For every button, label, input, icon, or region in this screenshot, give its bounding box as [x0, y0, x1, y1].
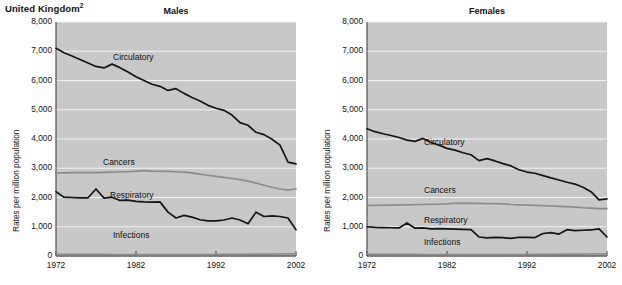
- series-line-males-infections: [56, 254, 296, 255]
- y-tick-label-females-3000: 3,000: [329, 162, 363, 172]
- y-tick-label-males-6000: 6,000: [18, 75, 52, 85]
- y-tick-label-females-4000: 4,000: [329, 133, 363, 143]
- chart-figure: United Kingdom2 Males Females Rates per …: [0, 0, 622, 285]
- y-axis-label-males: Rates per million population: [11, 130, 21, 232]
- panel-title-males: Males: [56, 6, 296, 16]
- panel-title-females: Females: [367, 6, 607, 16]
- x-tick-label-females-1982: 1982: [430, 260, 464, 270]
- chart-canvas: [0, 0, 622, 285]
- y-tick-label-males-7000: 7,000: [18, 45, 52, 55]
- series-label-cancers-males: Cancers: [103, 157, 135, 167]
- y-tick-label-females-5000: 5,000: [329, 104, 363, 114]
- y-tick-label-males-4000: 4,000: [18, 133, 52, 143]
- series-label-respiratory-females: Respiratory: [424, 215, 467, 225]
- y-tick-label-females-2000: 2,000: [329, 192, 363, 202]
- series-label-infections-females: Infections: [424, 237, 460, 247]
- y-tick-label-males-2000: 2,000: [18, 192, 52, 202]
- series-label-respiratory-males: Respiratory: [110, 190, 153, 200]
- series-label-circulatory-females: Circulatory: [424, 137, 465, 147]
- x-tick-label-females-1992: 1992: [510, 260, 544, 270]
- x-tick-label-females-2002: 2002: [590, 260, 622, 270]
- x-tick-label-males-1992: 1992: [199, 260, 233, 270]
- x-tick-label-males-2002: 2002: [279, 260, 313, 270]
- series-line-females-infections: [367, 254, 607, 255]
- x-tick-label-females-1972: 1972: [350, 260, 384, 270]
- x-tick-label-males-1972: 1972: [39, 260, 73, 270]
- y-tick-label-females-0: 0: [329, 250, 363, 260]
- y-tick-label-males-5000: 5,000: [18, 104, 52, 114]
- y-tick-label-females-7000: 7,000: [329, 45, 363, 55]
- series-label-infections-males: Infections: [113, 230, 149, 240]
- y-tick-label-males-0: 0: [18, 250, 52, 260]
- series-label-cancers-females: Cancers: [424, 185, 456, 195]
- y-tick-label-females-6000: 6,000: [329, 75, 363, 85]
- y-tick-label-males-3000: 3,000: [18, 162, 52, 172]
- y-tick-label-females-1000: 1,000: [329, 221, 363, 231]
- y-tick-label-males-1000: 1,000: [18, 221, 52, 231]
- y-tick-label-females-8000: 8,000: [329, 16, 363, 26]
- y-axis-label-females: Rates per million population: [322, 130, 332, 232]
- x-tick-label-males-1982: 1982: [119, 260, 153, 270]
- series-label-circulatory-males: Circulatory: [113, 52, 154, 62]
- y-tick-label-males-8000: 8,000: [18, 16, 52, 26]
